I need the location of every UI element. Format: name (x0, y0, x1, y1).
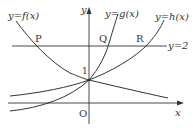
curve-h (10, 20, 164, 96)
origin-label: O (79, 108, 87, 119)
x-axis-label: x (175, 107, 181, 118)
y-axis-arrow-icon (87, 7, 92, 14)
line-y-equals-2-label: y=2 (167, 40, 188, 51)
y-intercept-label: 1 (82, 66, 88, 76)
curve-g-label: y=g(x) (104, 8, 139, 19)
point-r-label: R (136, 33, 144, 44)
exponential-graph-diagram: y x O 1 y=f(x) y=g(x) y=h(x) y=2 P Q R (0, 0, 194, 128)
curve-g (10, 14, 118, 111)
curve-h-label: y=h(x) (154, 11, 189, 22)
point-0-1 (88, 79, 91, 82)
point-q-label: Q (99, 33, 107, 44)
point-p-label: P (35, 33, 42, 44)
y-axis-label: y (80, 4, 87, 15)
x-axis-arrow-icon (177, 101, 184, 106)
curve-f-label: y=f(x) (7, 10, 39, 21)
